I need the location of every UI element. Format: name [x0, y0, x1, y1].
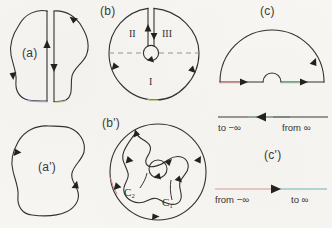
panel-b-prime: (b') C₂ C₁ — [100, 116, 218, 226]
arrow-right-side — [72, 181, 79, 189]
arrow-outer-bottom — [152, 213, 160, 220]
small-indent-semicircle — [263, 73, 281, 82]
panel-c-prime: (c') — [212, 148, 332, 174]
panel-c: (c) — [212, 0, 332, 100]
axis-line-c: to −∞ from ∞ — [218, 110, 328, 136]
arrow-outer-lower-right — [188, 66, 195, 73]
arrow-inner-left — [126, 156, 134, 164]
axis-c-prime-left-label: from −∞ — [215, 194, 249, 205]
arrow-slit-down — [50, 64, 57, 72]
outer-circle-right — [154, 8, 199, 100]
panel-a-prime: (a') — [2, 118, 102, 223]
curve-label-c2: C₂ — [124, 186, 135, 198]
axis-c-prime-right-label: to ∞ — [291, 194, 308, 205]
blob-right-outline — [54, 11, 88, 102]
axis-c-left-label: to −∞ — [218, 122, 241, 133]
region-label-II: II — [129, 28, 136, 39]
arrow-axis-left — [240, 79, 248, 86]
panel-b-prime-label: (b') — [102, 116, 120, 130]
arrow-axis-line-c — [256, 113, 266, 122]
axis-line-c-prime: from −∞ to ∞ — [215, 182, 327, 208]
panel-a-prime-label: (a') — [38, 160, 56, 174]
arrow-inner-right — [175, 175, 182, 182]
region-label-III: III — [162, 28, 172, 39]
arrow-slit-up — [145, 24, 152, 31]
panel-a-drawing — [0, 0, 100, 110]
arrow-centre-circle — [147, 56, 154, 62]
arrow-outer-lower-left — [112, 63, 120, 70]
arrow-axis-line-c-prime — [271, 185, 281, 194]
figure-page: (a) (b) — [0, 0, 332, 228]
arrow-slit-down — [151, 33, 158, 40]
axis-c-right-label: from ∞ — [282, 122, 310, 133]
panel-c-prime-label: (c') — [264, 148, 281, 162]
large-semicircle — [220, 30, 324, 82]
region-label-I: I — [149, 76, 152, 87]
arrow-outer-upper-right — [194, 156, 201, 163]
arrow-outer-lower-left — [114, 182, 122, 190]
leader-line-c2 — [140, 173, 147, 188]
panel-a-label: (a) — [22, 46, 38, 60]
arrow-slit-up — [43, 40, 50, 48]
arrow-axis-right — [300, 79, 308, 86]
panel-a: (a) — [0, 0, 100, 110]
outer-circle — [110, 124, 206, 220]
panel-b-prime-drawing — [100, 116, 218, 226]
panel-b-label: (b) — [100, 4, 116, 18]
panel-c-label: (c) — [260, 4, 275, 18]
panel-b: (b) II III I — [96, 0, 216, 110]
curve-label-c1: C₁ — [162, 196, 173, 208]
arrow-large-arc — [310, 58, 317, 66]
